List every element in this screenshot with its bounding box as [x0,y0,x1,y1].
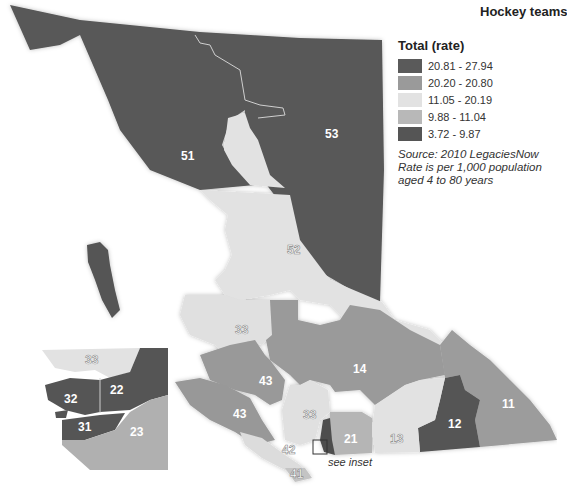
source-note: Source: 2010 LegaciesNow Rate is per 1,0… [398,148,542,187]
legend-swatch [398,76,422,90]
inset-caption: see inset [328,456,372,468]
legend-item: 3.72 - 9.87 [398,125,493,142]
legend-label: 11.05 - 20.19 [428,94,492,106]
legend-swatch [398,93,422,107]
label-11: 11 [502,397,515,411]
label-42: 42 [282,443,296,457]
legend-item: 11.05 - 20.19 [398,91,493,108]
legend-swatch [398,110,422,124]
legend-item: 20.81 - 27.94 [398,57,493,74]
inset-label-33: 33 [85,353,99,367]
legend-item: 20.20 - 20.80 [398,74,493,91]
label-21: 21 [344,432,358,446]
label-43-north: 43 [259,374,273,388]
inset-label-32: 32 [64,392,78,406]
source-line: Source: 2010 LegaciesNow [398,148,542,161]
label-41: 41 [290,467,304,481]
label-12: 12 [448,417,462,431]
legend-label: 9.88 - 11.04 [428,111,486,123]
label-33: 33 [235,323,249,337]
legend-item: 9.88 - 11.04 [398,108,493,125]
region-53[interactable] [10,5,384,302]
label-13: 13 [390,432,404,446]
legend: Total (rate) 20.81 - 27.94 20.20 - 20.80… [398,38,493,142]
legend-swatch [398,59,422,73]
legend-label: 20.20 - 20.80 [428,77,493,89]
legend-swatch [398,127,422,141]
label-14: 14 [353,362,367,376]
legend-label: 20.81 - 27.94 [428,60,493,72]
label-51: 51 [181,149,195,163]
inset-label-23: 23 [130,425,144,439]
region-haida-gwaii[interactable] [87,242,120,318]
inset-map[interactable] [40,348,168,470]
legend-title: Total (rate) [398,38,493,53]
rate-note-line: aged 4 to 80 years [398,174,542,187]
rate-note-line: Rate is per 1,000 population [398,161,542,174]
label-43-south: 43 [233,407,247,421]
inset-label-31: 31 [78,420,92,434]
legend-label: 3.72 - 9.87 [428,128,481,140]
label-53: 53 [325,127,339,141]
label-33-south: 33 [303,408,317,422]
label-52: 52 [287,243,301,257]
inset-label-22: 22 [110,383,124,397]
